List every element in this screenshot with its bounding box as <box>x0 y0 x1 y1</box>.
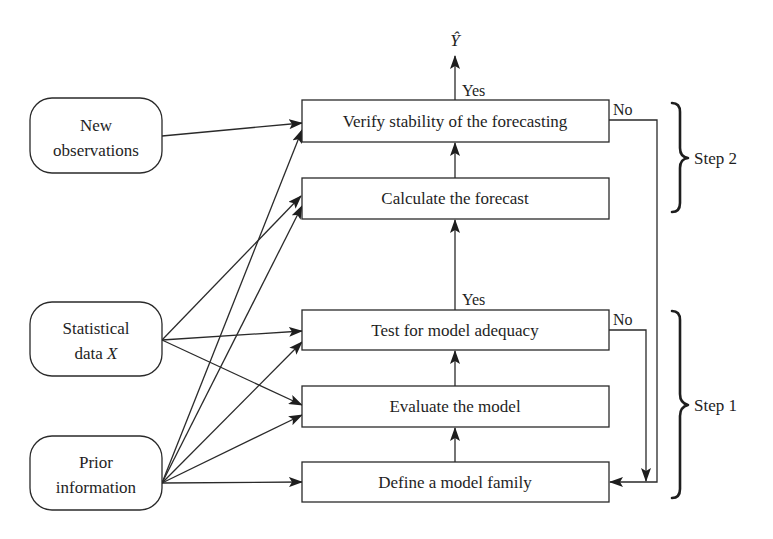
verify-no-label: No <box>613 101 633 118</box>
test-yes-label: Yes <box>462 291 485 308</box>
svg-text:Verify stability of the foreca: Verify stability of the forecasting <box>343 112 568 131</box>
verify-no-loop <box>609 120 657 482</box>
process-calculate-forecast: Calculate the forecast <box>302 178 609 219</box>
svg-text:Calculate the forecast: Calculate the forecast <box>381 189 529 208</box>
arrow-newobs-to-verify <box>162 123 302 136</box>
input-new-observations: New observations <box>30 98 162 173</box>
svg-text:observations: observations <box>53 141 139 160</box>
svg-text:Evaluate the model: Evaluate the model <box>389 397 521 416</box>
process-define-model-family: Define a model family <box>302 462 609 502</box>
arrow-stat-to-calculate <box>162 196 301 340</box>
arrow-stat-to-evaluate <box>162 340 302 405</box>
step2-brace <box>672 103 688 212</box>
step1-brace <box>672 311 688 498</box>
process-verify-stability: Verify stability of the forecasting <box>302 100 609 142</box>
step2-label: Step 2 <box>694 149 737 168</box>
svg-text:information: information <box>56 478 137 497</box>
arrow-prior-to-verify <box>162 130 302 483</box>
verify-yes-label: Yes <box>462 82 485 99</box>
input-prior-information: Prior information <box>30 436 162 510</box>
process-test-model-adequacy: Test for model adequacy <box>302 310 609 350</box>
arrow-prior-to-calculate <box>162 206 302 483</box>
arrow-prior-to-evaluate <box>162 415 302 483</box>
arrow-prior-to-test <box>162 342 302 483</box>
arrow-stat-to-test <box>162 331 302 340</box>
svg-text:Prior: Prior <box>79 453 113 472</box>
svg-text:Test for model adequacy: Test for model adequacy <box>371 321 539 340</box>
process-evaluate-model: Evaluate the model <box>302 386 609 427</box>
svg-text:Define a model family: Define a model family <box>378 473 532 492</box>
svg-text:New: New <box>80 116 113 135</box>
output-y-hat-label: Ŷ <box>450 31 461 50</box>
svg-text:data X: data X <box>75 344 119 363</box>
svg-text:Statistical: Statistical <box>62 319 129 338</box>
forecasting-flowchart: Ŷ New observations Statistical data X Pr… <box>0 0 773 539</box>
test-no-loop <box>609 330 646 481</box>
input-statistical-data: Statistical data X <box>30 302 162 376</box>
step1-label: Step 1 <box>694 396 737 415</box>
arrow-prior-to-define <box>162 482 302 483</box>
test-no-label: No <box>613 311 633 328</box>
